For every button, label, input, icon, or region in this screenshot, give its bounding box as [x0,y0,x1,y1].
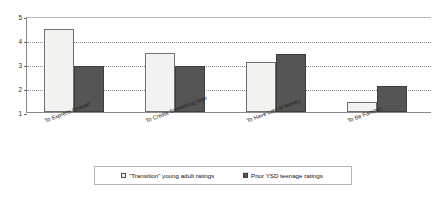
bar [377,86,407,112]
bar [246,62,276,112]
bar-group [347,18,407,112]
y-tick-label: 3 [18,63,22,70]
y-tick-mark [24,18,27,19]
y-tick-label: 2 [18,87,22,94]
plot-area: 12345 [26,17,431,113]
y-tick-label: 5 [18,15,22,22]
y-tick-mark [24,114,27,115]
legend-label-transition: "Transition" young adult ratings [129,172,214,178]
bar [44,29,74,112]
bar-chart: 12345 To Express OneselfTo Create Someth… [0,0,444,203]
legend: "Transition" young adult ratings Prior Y… [94,166,352,185]
y-tick-mark [24,66,27,67]
legend-entry-transition: "Transition" young adult ratings [121,172,214,178]
bar-group [44,18,104,112]
legend-entry-prior-ysd: Prior YSD teenage ratings [243,172,323,178]
y-tick-mark [24,90,27,91]
y-tick-label: 4 [18,39,22,46]
legend-swatch-dark-icon [243,173,248,178]
bar [145,53,175,112]
legend-swatch-light-icon [121,173,126,178]
legend-label-prior-ysd: Prior YSD teenage ratings [251,172,323,178]
y-tick-label: 1 [18,111,22,118]
y-tick-mark [24,42,27,43]
